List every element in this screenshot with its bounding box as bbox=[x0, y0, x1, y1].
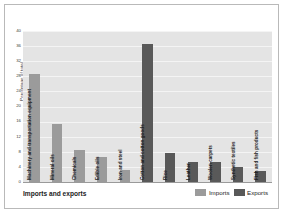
bar-slot: Machinery and transportation equipment bbox=[23, 31, 46, 182]
bar-slot: Chemicals bbox=[68, 31, 91, 182]
y-axis-tick-label: 24 bbox=[16, 88, 21, 93]
bar-category-label: Leather bbox=[186, 163, 191, 180]
y-axis-tick-label: 0 bbox=[19, 179, 21, 184]
legend-label: Imports bbox=[209, 189, 230, 196]
y-axis-tick-label: 12 bbox=[16, 134, 21, 139]
bar-slot: Rice bbox=[159, 31, 182, 182]
bar-slot: Woolen carpets bbox=[204, 31, 227, 182]
bar-category-label: Rice bbox=[163, 170, 168, 180]
bar-slot: Iron and steel bbox=[114, 31, 137, 182]
legend-swatch-icon bbox=[234, 189, 245, 196]
bar-category-label: Cotton and cotton goods bbox=[140, 124, 145, 180]
y-axis-tick-label: 36 bbox=[16, 43, 21, 48]
y-axis-tick-label: 16 bbox=[16, 118, 21, 123]
axis-baseline bbox=[23, 182, 272, 183]
bar-slot: Cotton and cotton goods bbox=[136, 31, 159, 182]
y-axis-tick-label: 40 bbox=[16, 28, 21, 33]
bar-category-label: Iron and steel bbox=[118, 149, 123, 180]
bar-category-label: Woolen carpets bbox=[208, 145, 213, 180]
chart-screenshot: Percentage of total 4036322824201612840 … bbox=[0, 0, 283, 213]
legend-item-imports[interactable]: Imports bbox=[195, 189, 229, 196]
bar-category-label: Edible oils bbox=[95, 156, 100, 180]
bar-slot: Leather bbox=[181, 31, 204, 182]
bar-category-label: Synthetic textiles bbox=[231, 141, 236, 180]
chart-legend: ImportsExports bbox=[195, 189, 268, 196]
plot-area: 4036322824201612840 Machinery and transp… bbox=[23, 27, 272, 182]
bar-slot: Fish and fish products bbox=[249, 31, 272, 182]
bars-layer: Machinery and transportation equipmentMi… bbox=[23, 31, 272, 182]
bar-slot: Mineral oils bbox=[46, 31, 69, 182]
y-axis-tick-label: 8 bbox=[19, 149, 21, 154]
bar-category-label: Chemicals bbox=[72, 157, 77, 180]
bar-category-label: Fish and fish products bbox=[254, 130, 259, 180]
y-axis-tick-label: 20 bbox=[16, 103, 21, 108]
bar-category-label: Mineral oils bbox=[50, 154, 55, 180]
bar-slot: Synthetic textiles bbox=[227, 31, 250, 182]
chart-footer: Imports and exports ImportsExports bbox=[23, 188, 268, 202]
figure-frame: Percentage of total 4036322824201612840 … bbox=[4, 4, 279, 209]
bar-category-label: Machinery and transportation equipment bbox=[27, 89, 32, 180]
y-axis-tick-label: 4 bbox=[19, 164, 21, 169]
legend-swatch-icon bbox=[195, 189, 206, 196]
legend-item-exports[interactable]: Exports bbox=[234, 189, 268, 196]
y-axis-tick-label: 32 bbox=[16, 58, 21, 63]
chart-title: Imports and exports bbox=[23, 190, 86, 197]
y-axis-tick-label: 28 bbox=[16, 73, 21, 78]
legend-label: Exports bbox=[247, 189, 268, 196]
bar-slot: Edible oils bbox=[91, 31, 114, 182]
